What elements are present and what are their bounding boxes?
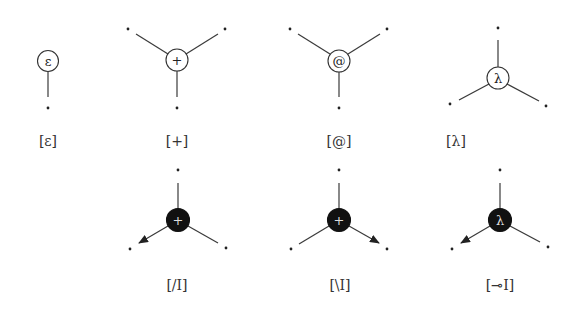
edge (510, 226, 540, 242)
port-dot (497, 27, 500, 30)
port-dot (451, 248, 454, 251)
port-dot (338, 169, 341, 172)
port-dot (290, 248, 293, 251)
edge (188, 226, 218, 243)
backslash-intro-symbol: + (334, 213, 345, 228)
lambda-symbol: λ (494, 71, 502, 86)
port-dot (449, 103, 452, 106)
port-dot (338, 107, 341, 110)
lambda-node-group: λ [λ] (446, 27, 547, 149)
epsilon-node-group: ε [ε] (38, 51, 59, 150)
edge (186, 34, 218, 54)
plus-node-group: + [+] (127, 28, 227, 149)
port-dot (129, 248, 132, 251)
plus-label: [+] (166, 133, 189, 149)
slash-intro-symbol: + (173, 213, 184, 228)
slash-intro-node-group: + [/I] (129, 169, 228, 293)
backslash-intro-node-group: + [\I] (290, 169, 389, 293)
port-dot (177, 169, 180, 172)
edge (136, 34, 168, 54)
arrow-edge (349, 226, 379, 243)
plus-symbol: + (172, 53, 183, 68)
lollipop-intro-label: [⊸I] (486, 277, 514, 293)
port-dot (547, 246, 550, 249)
port-dot (47, 107, 50, 110)
port-dot (224, 28, 227, 31)
at-label: [@] (327, 133, 352, 149)
lollipop-intro-node-group: λ [⊸I] (451, 169, 550, 293)
slash-intro-label: [/I] (166, 277, 187, 293)
arrow-edge (461, 226, 490, 243)
edge (459, 84, 489, 100)
at-node-group: @ [@] (289, 28, 389, 149)
port-dot (127, 28, 130, 31)
lollipop-intro-symbol: λ (496, 213, 504, 228)
edge (348, 34, 380, 54)
port-dot (545, 105, 548, 108)
edge (298, 34, 330, 54)
port-dot (386, 248, 389, 251)
port-dot (225, 247, 228, 250)
epsilon-label: [ε] (39, 133, 57, 149)
port-dot (386, 28, 389, 31)
port-dot (499, 169, 502, 172)
arrow-edge (139, 226, 168, 243)
edge (299, 226, 329, 244)
lambda-label: [λ] (446, 133, 466, 149)
port-dot (176, 107, 179, 110)
epsilon-symbol: ε (45, 54, 52, 69)
edge (507, 84, 539, 101)
backslash-intro-label: [\I] (329, 277, 350, 293)
at-symbol: @ (333, 54, 346, 69)
port-dot (289, 28, 292, 31)
diagram-canvas: ε [ε] + [+] @ [@] λ [λ] (0, 0, 579, 313)
